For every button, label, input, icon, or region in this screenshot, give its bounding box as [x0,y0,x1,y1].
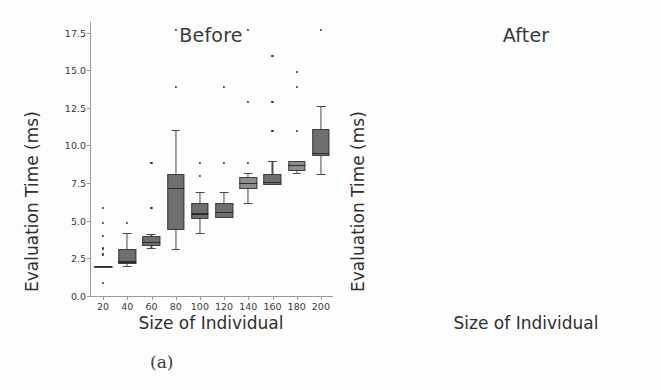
outlier-point [247,29,249,31]
whisker-cap-upper [317,106,326,107]
box-iqr [167,174,184,230]
median-line [264,182,281,183]
whisker-upper [199,192,200,203]
x-axis-label-a: Size of Individual [90,313,332,333]
whisker-lower [248,189,249,203]
whisker-cap-lower [147,248,156,249]
box-plot-group [260,22,284,296]
whisker-cap-lower [317,174,326,175]
outlier-point [296,86,298,88]
median-line [288,165,305,166]
outlier-point [320,29,322,31]
outlier-point [199,162,201,164]
outlier-point [150,162,152,164]
box-iqr [264,174,281,185]
x-tick-mark [127,296,128,300]
whisker-cap-upper [268,161,277,162]
whisker-cap-lower [292,173,301,174]
outlier-point [271,55,273,57]
box-plot-group [212,22,236,296]
box-plot-group [164,22,188,296]
outlier-point [271,101,273,103]
outlier-point [102,207,104,209]
y-tick-mark [87,296,91,297]
outlier-point [102,235,104,237]
x-tick-mark [152,296,153,300]
box-plot-group [309,22,333,296]
outlier-point [175,86,177,88]
whisker-cap-upper [220,192,229,193]
median-line [240,183,257,184]
panel-b-after: After Evaluation Time (ms) 0.02.55.07.51… [336,0,661,345]
y-axis-label-b: Evaluation Time (ms) [348,111,368,292]
whisker-cap-upper [171,130,180,131]
subfigure-caption-a: (a) [150,352,173,372]
box-plot-group [285,22,309,296]
whisker-lower [199,219,200,233]
outlier-point [199,175,201,177]
whisker-lower [320,156,321,174]
whisker-cap-upper [244,173,253,174]
whisker-cap-lower [196,233,205,234]
x-tick-mark [200,296,201,300]
outlier-point [271,130,273,132]
outlier-point [150,207,152,209]
x-tick-mark [176,296,177,300]
x-tick-mark [248,296,249,300]
x-tick-mark [224,296,225,300]
whisker-upper [224,192,225,203]
plot-area-before: 0.02.55.07.510.012.515.017.5204060801001… [90,22,333,297]
outlier-point [296,71,298,73]
outlier-point [247,162,249,164]
outlier-point [223,162,225,164]
outlier-point [102,247,104,249]
x-tick-mark [103,296,104,300]
x-tick-mark [321,296,322,300]
box-iqr [215,203,232,218]
median-line [119,261,136,262]
x-tick-mark [297,296,298,300]
whisker-cap-lower [123,266,132,267]
median-line [94,266,111,267]
whisker-upper [175,130,176,174]
y-axis-label-a: Evaluation Time (ms) [22,111,42,292]
x-axis-label-b: Size of Individual [410,313,642,333]
whisker-lower [175,230,176,250]
box-iqr [191,203,208,220]
outlier-point [102,222,104,224]
box-iqr [312,129,329,156]
whisker-upper [127,233,128,250]
outlier-point [175,29,177,31]
median-line [215,212,232,213]
figure-container: Before Evaluation Time (ms) 0.02.55.07.5… [0,0,661,390]
whisker-cap-lower [171,249,180,250]
plot-title-after: After [410,24,642,46]
median-line [167,188,184,189]
box-plot-group [115,22,139,296]
box-plot-group [91,22,115,296]
outlier-point [247,101,249,103]
outlier-point [126,222,128,224]
box-plot-group [139,22,163,296]
median-line [191,213,208,214]
whisker-cap-upper [196,192,205,193]
outlier-point [102,282,104,284]
whisker-cap-lower [244,203,253,204]
median-line [143,242,160,243]
x-tick-mark [273,296,274,300]
outlier-point [223,86,225,88]
box-plot-group [236,22,260,296]
outlier-point [296,130,298,132]
whisker-upper [320,106,321,129]
outlier-point [102,253,104,255]
panel-a-before: Before Evaluation Time (ms) 0.02.55.07.5… [0,0,336,345]
whisker-upper [272,161,273,175]
box-plot-group [188,22,212,296]
median-line [312,153,329,154]
whisker-cap-upper [123,233,132,234]
